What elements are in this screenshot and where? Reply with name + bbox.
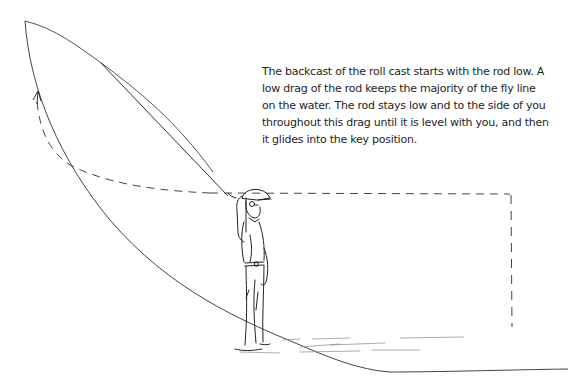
rod-path-horizontal-dashed bbox=[210, 193, 510, 194]
caption-line-5: it glides into the key position. bbox=[262, 131, 552, 148]
caption-line-4: throughout this drag until it is level w… bbox=[262, 114, 552, 131]
arrow-up-icon bbox=[33, 91, 41, 104]
fly-rod bbox=[100, 62, 228, 196]
caption-line-2: low drag of the rod keeps the majority o… bbox=[262, 80, 552, 97]
water-surface bbox=[240, 337, 464, 353]
caption-line-1: The backcast of the roll cast starts wit… bbox=[262, 63, 552, 80]
rod-path-arc-dashed bbox=[37, 102, 210, 193]
caption-text: The backcast of the roll cast starts wit… bbox=[262, 63, 552, 148]
roll-cast-illustration bbox=[0, 0, 568, 387]
caption-line-3: on the water. The rod stays low and to t… bbox=[262, 97, 552, 114]
illustration-page: The backcast of the roll cast starts wit… bbox=[0, 0, 568, 387]
angler-figure bbox=[228, 189, 271, 350]
fly-line-upper-curve bbox=[25, 21, 213, 172]
rod-path-vertical-dashed bbox=[511, 195, 512, 327]
